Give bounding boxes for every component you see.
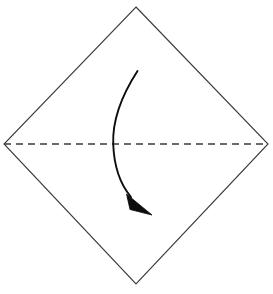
fold-diagram-canvas: origami valley fold diagram (0, 0, 273, 294)
origami-fold-diagram: origami valley fold diagram (0, 0, 273, 294)
